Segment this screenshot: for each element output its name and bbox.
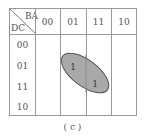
cell-value: 1 (88, 79, 102, 89)
cell-value: 1 (66, 62, 80, 72)
figure-caption: ( c ) (0, 122, 145, 132)
karnaugh-map: BA DC 00 01 11 10 00 01 11 10 1 1 (9, 8, 137, 116)
